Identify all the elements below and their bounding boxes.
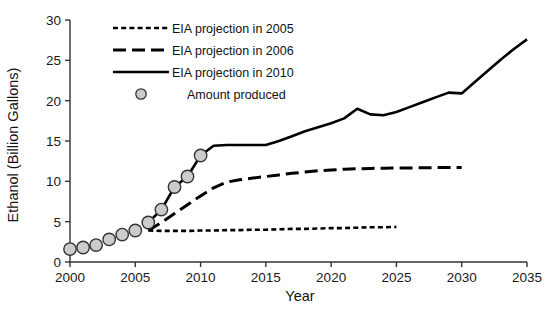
legend-label: EIA projection in 2006 [172,44,294,58]
y-tick-label: 25 [46,53,61,68]
series-line [148,227,396,231]
y-tick-label: 0 [53,255,61,270]
data-point-marker [181,170,193,182]
x-axis-tick-labels: 20002005201020152020202520302035 [55,270,542,285]
data-point-marker [155,203,167,215]
chart-canvas: 051015202530 200020052010201520202025203… [0,0,552,313]
y-tick-label: 20 [46,94,61,109]
data-point-marker [168,181,180,193]
y-tick-label: 15 [46,134,61,149]
legend-label: Amount produced [187,88,286,102]
y-tick-label: 30 [46,13,61,28]
data-point-marker [142,216,154,228]
legend-label: EIA projection in 2005 [172,22,294,36]
y-axis-ticks [65,20,70,262]
x-axis-title: Year [285,288,314,304]
x-tick-label: 2025 [381,270,411,285]
legend-marker-icon [136,89,146,99]
y-tick-label: 5 [53,215,61,230]
x-axis-ticks [70,262,527,267]
ethanol-projection-chart: 051015202530 200020052010201520202025203… [0,0,552,313]
x-tick-label: 2005 [120,270,150,285]
legend-label: EIA projection in 2010 [172,66,294,80]
chart-legend: EIA projection in 2005EIA projection in … [113,22,294,102]
data-point-marker [116,228,128,240]
data-point-marker [129,224,141,236]
y-tick-label: 10 [46,174,61,189]
x-tick-label: 2030 [447,270,477,285]
amount-produced-markers [64,149,207,255]
x-tick-label: 2015 [251,270,281,285]
x-tick-label: 2000 [55,270,85,285]
series-line [148,168,461,231]
data-point-marker [77,241,89,253]
x-tick-label: 2035 [512,270,542,285]
data-point-marker [103,233,115,245]
data-point-marker [194,149,206,161]
x-tick-label: 2010 [186,270,216,285]
data-point-marker [90,239,102,251]
data-point-marker [64,243,76,255]
x-tick-label: 2020 [316,270,346,285]
y-axis-title: Ethanol (Billion Gallons) [5,68,21,223]
y-axis-tick-labels: 051015202530 [46,13,61,270]
